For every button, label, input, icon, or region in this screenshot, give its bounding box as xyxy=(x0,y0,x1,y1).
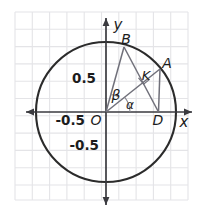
geometry-figure: B A K D O β α x y 0.5 -0.5 -0.5 xyxy=(0,0,211,215)
grid xyxy=(15,12,188,200)
segment-AD xyxy=(159,69,161,112)
x-tick-negative-half: -0.5 xyxy=(55,112,85,128)
y-axis-label: y xyxy=(113,16,124,34)
origin-label: O xyxy=(90,112,101,128)
unit-circle-diagram-svg: B A K D O β α x y 0.5 -0.5 -0.5 xyxy=(0,0,211,215)
angle-label-alpha: α xyxy=(126,98,134,112)
point-label-B: B xyxy=(121,31,131,47)
y-tick-negative-half: -0.5 xyxy=(69,137,99,153)
y-tick-positive-half: 0.5 xyxy=(72,70,96,86)
point-label-D: D xyxy=(153,112,164,128)
point-label-A: A xyxy=(161,55,172,71)
x-axis-label: x xyxy=(179,113,189,131)
angle-label-beta: β xyxy=(111,87,121,103)
point-label-K: K xyxy=(142,68,152,83)
